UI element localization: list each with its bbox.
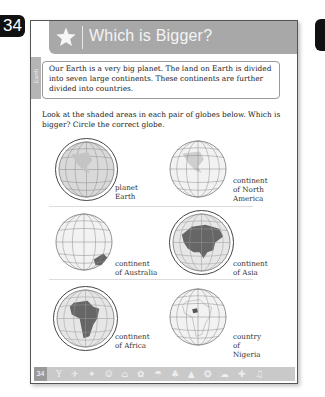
globe-planet-earth[interactable] bbox=[55, 138, 118, 201]
globe-pair-3: continentof Africa countryof Nigeria bbox=[41, 283, 253, 354]
label-africa: continentof Africa bbox=[115, 332, 150, 350]
label-asia: continentof Asia bbox=[233, 259, 268, 277]
row-divider bbox=[49, 206, 253, 207]
instructions-text: Look at the shaded areas in each pair of… bbox=[42, 110, 282, 130]
globe-north-america-icon bbox=[169, 140, 227, 198]
footer-decorative-icons: Y ✈ ✦ ☺ ⌂ ✿ ☂ ♣ ▲ ✪ ☁ ✚ ♫ bbox=[56, 368, 266, 380]
globe-north-america[interactable] bbox=[169, 140, 227, 198]
globe-nigeria[interactable] bbox=[169, 288, 227, 346]
side-tab: Earth bbox=[31, 57, 41, 99]
globe-pair-1: planetEarth continentof NorthAmerica bbox=[41, 136, 253, 207]
globe-asia[interactable] bbox=[169, 210, 234, 275]
workbook-page: Which is Bigger? Earth Our Earth is a ve… bbox=[30, 20, 298, 384]
star-icon bbox=[55, 26, 77, 48]
row-divider bbox=[49, 279, 253, 280]
globe-pair-2: continentof Australia continentof Asia bbox=[41, 209, 253, 280]
page-title: Which is Bigger? bbox=[89, 27, 212, 45]
intro-text: Our Earth is a very big planet. The land… bbox=[49, 64, 279, 94]
label-planet-earth: planetEarth bbox=[115, 183, 138, 201]
side-tab-label: Earth bbox=[33, 59, 39, 93]
next-page-badge bbox=[315, 19, 325, 51]
globe-africa[interactable] bbox=[53, 286, 118, 351]
globe-asia-icon bbox=[172, 213, 231, 272]
page-header: Which is Bigger? bbox=[49, 21, 297, 54]
page-number-badge: 34 bbox=[0, 15, 25, 37]
page-footer: 34 Y ✈ ✦ ☺ ⌂ ✿ ☂ ♣ ▲ ✪ ☁ ✚ ♫ bbox=[34, 367, 295, 381]
label-australia: continentof Australia bbox=[115, 259, 157, 277]
globe-australia[interactable] bbox=[55, 213, 113, 271]
header-divider bbox=[82, 26, 83, 49]
label-north-america: continentof NorthAmerica bbox=[233, 176, 268, 203]
footer-page-number: 34 bbox=[34, 367, 47, 381]
globe-australia-icon bbox=[55, 213, 113, 271]
label-nigeria: countryof Nigeria bbox=[233, 332, 261, 359]
globe-nigeria-icon bbox=[169, 288, 227, 346]
intro-box: Our Earth is a very big planet. The land… bbox=[42, 61, 280, 99]
globe-africa-icon bbox=[56, 289, 115, 348]
globe-earth-icon bbox=[58, 141, 115, 198]
